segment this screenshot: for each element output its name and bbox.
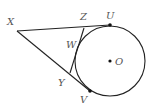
- segment-xu: [17, 25, 110, 31]
- point-u-dot: [108, 23, 112, 27]
- point-o-dot: [108, 59, 111, 62]
- label-v: V: [80, 94, 89, 105]
- label-x: X: [6, 16, 15, 27]
- point-v-dot: [88, 89, 92, 93]
- label-o: O: [115, 56, 123, 67]
- geometry-diagram: X Z U W Y V O: [0, 0, 151, 108]
- label-z: Z: [79, 11, 88, 22]
- segment-xv: [17, 31, 90, 91]
- label-w: W: [66, 39, 77, 50]
- label-y: Y: [58, 77, 66, 88]
- segment-zy: [70, 28, 84, 73]
- label-u: U: [106, 10, 115, 21]
